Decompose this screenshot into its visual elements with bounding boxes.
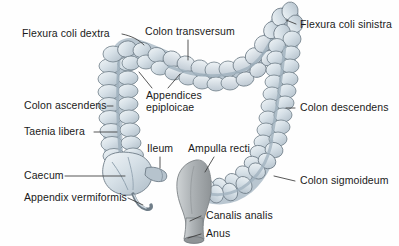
leader-colon-sigmoideum xyxy=(274,176,295,181)
label-anus: Anus xyxy=(206,228,230,240)
label-colon-sigmoideum: Colon sigmoideum xyxy=(300,175,389,187)
label-caecum: Caecum xyxy=(24,170,64,182)
label-ileum: Ileum xyxy=(147,143,173,155)
label-canalis-analis: Canalis analis xyxy=(206,210,273,222)
label-colon-ascendens: Colon ascendens xyxy=(24,100,107,112)
anus-opening xyxy=(184,237,204,244)
label-colon-transversum: Colon transversum xyxy=(145,26,235,38)
label-taenia-libera: Taenia libera xyxy=(24,126,85,138)
label-flexura-coli-dextra: Flexura coli dextra xyxy=(22,28,110,40)
label-ampulla-recti: Ampulla recti xyxy=(188,143,250,155)
leader-appendices-epiploicae-a xyxy=(139,72,152,88)
label-appendix-vermiformis: Appendix vermiformis xyxy=(24,192,127,204)
label-appendices-epiploicae-line2: epiploicae xyxy=(146,102,194,114)
anatomy-figure: Flexura coli dextra Colon transversum Fl… xyxy=(0,0,399,246)
colon-transversum-segment xyxy=(161,32,280,91)
label-flexura-coli-sinistra: Flexura coli sinistra xyxy=(300,19,392,31)
label-colon-descendens: Colon descendens xyxy=(300,102,389,114)
label-appendices-epiploicae-line1: Appendices xyxy=(146,90,202,102)
